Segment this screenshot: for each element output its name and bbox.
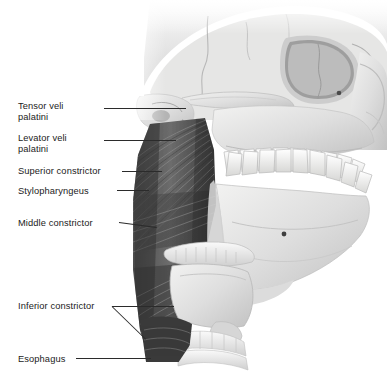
label-line-1: Superior constrictor	[18, 166, 101, 177]
label-line-1: Middle constrictor	[18, 218, 93, 229]
label-levator-veli-palatini: Levator velipalatini	[18, 133, 67, 154]
label-middle-constrictor: Middle constrictor	[18, 218, 93, 229]
leader-esophagus	[76, 358, 151, 359]
top-fade	[140, 0, 387, 34]
infraorbital-foramen	[337, 91, 342, 96]
label-line-1: Tensor veli	[18, 101, 64, 112]
hyoid-bone	[164, 242, 254, 267]
label-line-2: palatini	[18, 144, 67, 155]
leader-levator-veli-palatini	[104, 140, 176, 141]
label-line-1: Esophagus	[18, 354, 65, 365]
label-tensor-veli-palatini: Tensor velipalatini	[18, 101, 64, 122]
leader-inferior-constrictor-upper	[112, 306, 174, 307]
label-superior-constrictor: Superior constrictor	[18, 166, 101, 177]
label-line-1: Stylopharyngeus	[18, 186, 89, 197]
mental-foramen	[282, 232, 287, 237]
upper-mask	[128, 0, 144, 96]
label-esophagus: Esophagus	[18, 354, 65, 365]
leader-stylopharyngeus	[117, 190, 149, 191]
label-stylopharyngeus: Stylopharyngeus	[18, 186, 89, 197]
label-inferior-constrictor: Inferior constrictor	[18, 301, 94, 312]
label-line-1: Levator veli	[18, 133, 67, 144]
label-line-1: Inferior constrictor	[18, 301, 94, 312]
label-line-2: palatini	[18, 112, 64, 123]
leader-tensor-veli-palatini	[104, 108, 186, 109]
anatomy-figure: Tensor velipalatiniLevator velipalatiniS…	[0, 0, 387, 373]
leader-superior-constrictor	[122, 171, 162, 172]
